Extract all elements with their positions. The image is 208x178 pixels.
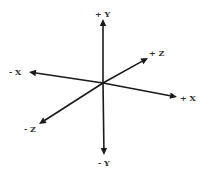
label-neg-z: - Z <box>24 124 36 134</box>
axes-diagram: + Y - Y - X + X + Z - Z <box>0 0 208 178</box>
arrowhead-icon-pos-x <box>170 93 177 99</box>
axis-line-pos-z <box>103 61 142 83</box>
arrowhead-icon-pos-y <box>100 19 106 26</box>
axis-line-neg-z <box>45 83 103 120</box>
label-pos-x: + X <box>180 93 196 103</box>
label-neg-x: - X <box>9 67 22 77</box>
arrowhead-icon-neg-x <box>29 70 36 76</box>
axis-line-neg-y <box>103 83 104 148</box>
label-pos-z: + Z <box>149 48 164 58</box>
axis-line-neg-x <box>36 73 103 83</box>
label-pos-y: + Y <box>95 9 110 19</box>
axes-group <box>29 19 177 155</box>
axis-line-pos-x <box>103 83 170 96</box>
label-neg-y: - Y <box>98 158 110 168</box>
arrowhead-icon-neg-y <box>101 148 107 155</box>
